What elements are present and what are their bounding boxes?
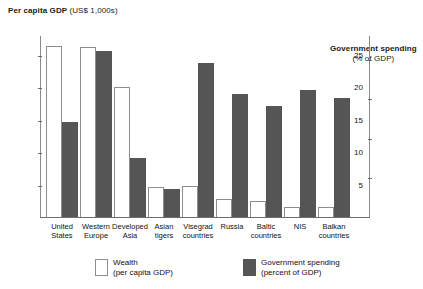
category-label: Balkancountries	[312, 222, 356, 240]
bar-government-spending	[130, 158, 146, 217]
legend-label-government-spending: Government spending (percent of GDP)	[261, 258, 340, 277]
bar-wealth	[80, 47, 96, 217]
legend-item-government-spending: Government spending (percent of GDP)	[243, 258, 340, 277]
category-label-line: countries	[244, 231, 288, 240]
left-axis-title: Per capita GDP (US$ 1,000s)	[8, 6, 118, 16]
bar-wealth	[216, 199, 232, 217]
legend-swatch-wealth	[95, 259, 108, 276]
bar-wealth	[114, 87, 130, 217]
category-axis-labels: UnitedStatesWesternEuropeDevelopedAsiaAs…	[40, 222, 370, 248]
left-axis-title-line2: (US$ 1,000s)	[69, 6, 117, 15]
chart-legend: Wealth (per capita GDP) Government spend…	[40, 258, 380, 284]
bar-government-spending	[334, 98, 350, 217]
legend-label-wealth-line1: Wealth	[113, 258, 138, 267]
bar-group	[250, 106, 282, 217]
bar-group	[148, 187, 180, 217]
bar-wealth	[46, 46, 62, 217]
bar-group	[114, 87, 146, 217]
bar-group	[284, 90, 316, 217]
bar-group	[46, 46, 78, 217]
bar-group	[80, 47, 112, 217]
bar-wealth	[318, 207, 334, 217]
category-label-line: countries	[312, 231, 356, 240]
legend-label-spending-line2: (percent of GDP)	[261, 268, 340, 278]
bar-wealth	[250, 201, 266, 217]
chart-container: Per capita GDP (US$ 1,000s) Government s…	[0, 0, 423, 289]
bar-government-spending	[198, 63, 214, 217]
bar-groups	[40, 36, 370, 217]
bar-wealth	[148, 187, 164, 217]
plot-area: 510152025 20304050	[40, 36, 370, 218]
bar-group	[216, 94, 248, 217]
legend-swatch-government-spending	[243, 259, 256, 276]
left-axis-title-line1: Per capita GDP	[8, 6, 67, 15]
legend-label-wealth: Wealth (per capita GDP)	[113, 258, 173, 277]
bar-wealth	[182, 186, 198, 217]
category-label-line: Balkan	[312, 222, 356, 231]
legend-item-wealth: Wealth (per capita GDP)	[95, 258, 173, 277]
category-label-line: countries	[176, 231, 220, 240]
bar-group	[318, 98, 350, 217]
bar-government-spending	[232, 94, 248, 217]
axis-baseline	[40, 217, 370, 218]
legend-label-spending-line1: Government spending	[261, 258, 340, 267]
bar-government-spending	[266, 106, 282, 217]
bar-group	[182, 63, 214, 217]
bar-government-spending	[164, 189, 180, 217]
bar-government-spending	[62, 122, 78, 217]
bar-wealth	[284, 207, 300, 217]
bar-government-spending	[96, 51, 112, 217]
bar-government-spending	[300, 90, 316, 217]
legend-label-wealth-line2: (per capita GDP)	[113, 268, 173, 278]
